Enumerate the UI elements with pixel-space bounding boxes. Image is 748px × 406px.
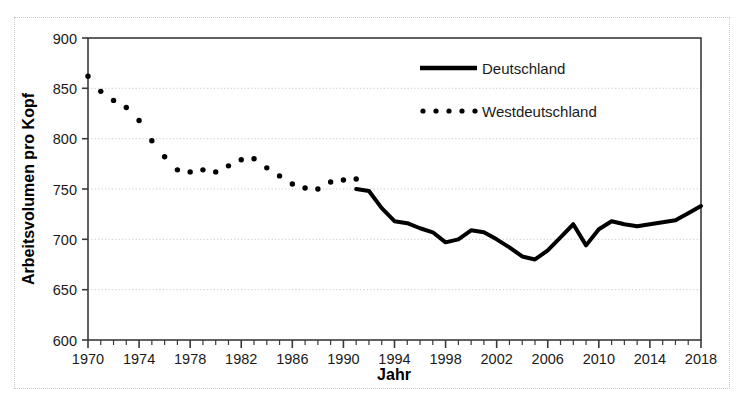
data-point <box>290 181 295 186</box>
data-point <box>277 173 282 178</box>
x-tick-label: 1982 <box>225 351 257 367</box>
legend-swatch-dotted <box>420 108 477 113</box>
x-tick-label: 1994 <box>378 351 410 367</box>
data-point <box>213 169 218 174</box>
y-axis-tick-labels: 900 850 800 750 700 650 600 <box>53 31 77 349</box>
series-westdeutschland <box>85 74 359 192</box>
x-tick-label: 1998 <box>429 351 461 367</box>
x-tick-label: 2014 <box>634 351 666 367</box>
x-tick-label: 2018 <box>685 351 717 367</box>
y-tick-label: 650 <box>53 282 77 298</box>
legend-label-deutschland: Deutschland <box>482 60 565 77</box>
data-point <box>239 157 244 162</box>
x-tick-label: 2002 <box>481 351 513 367</box>
data-point <box>85 74 90 79</box>
data-point <box>98 89 103 94</box>
data-point <box>111 98 116 103</box>
line-chart: 900 850 800 750 700 650 600 197019741978… <box>0 0 748 406</box>
data-point <box>315 186 320 191</box>
x-tick-label: 2006 <box>532 351 564 367</box>
y-tick-label: 850 <box>53 81 77 97</box>
x-tick-label: 1986 <box>276 351 308 367</box>
legend-label-westdeutschland: Westdeutschland <box>482 103 597 120</box>
chart-figure: 900 850 800 750 700 650 600 197019741978… <box>0 0 748 406</box>
x-axis-major-ticks <box>88 340 701 348</box>
data-point <box>187 169 192 174</box>
data-point <box>302 185 307 190</box>
x-tick-label: 1970 <box>72 351 104 367</box>
data-point <box>136 118 141 123</box>
y-tick-label: 900 <box>53 31 77 47</box>
data-point <box>226 163 231 168</box>
x-tick-label: 1990 <box>327 351 359 367</box>
y-tick-label: 800 <box>53 131 77 147</box>
data-point <box>353 176 358 181</box>
y-axis-title: Arbeitsvolumen pro Kopf <box>20 92 37 285</box>
y-tick-label: 700 <box>53 232 77 248</box>
data-point <box>251 156 256 161</box>
gridlines <box>88 88 701 289</box>
data-point <box>162 154 167 159</box>
data-point <box>149 138 154 143</box>
data-point <box>124 105 129 110</box>
data-point <box>200 167 205 172</box>
x-tick-label: 2010 <box>583 351 615 367</box>
series-deutschland <box>356 189 701 259</box>
y-tick-label: 600 <box>53 333 77 349</box>
data-point <box>328 179 333 184</box>
x-axis-title: Jahr <box>377 366 411 383</box>
x-tick-label: 1974 <box>123 351 155 367</box>
data-point <box>175 167 180 172</box>
x-axis-tick-labels: 1970197419781982198619901994199820022006… <box>72 351 717 367</box>
chart-legend: Deutschland Westdeutschland <box>420 60 597 120</box>
y-tick-label: 750 <box>53 182 77 198</box>
x-tick-label: 1978 <box>174 351 206 367</box>
y-axis-ticks <box>82 38 88 340</box>
data-point <box>264 165 269 170</box>
data-point <box>341 177 346 182</box>
